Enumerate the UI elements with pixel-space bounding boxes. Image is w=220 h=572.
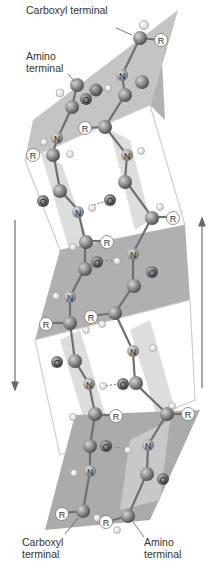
oxygen-label: O <box>94 258 101 268</box>
hydrogen-atom <box>150 345 157 352</box>
carbon-atom <box>76 504 90 518</box>
pleated-sheet-planes <box>25 10 200 530</box>
side-chain-r-label: R <box>113 412 120 422</box>
side-chain-r-label: R <box>104 238 111 248</box>
beta-sheet-diagram: R N O N R R N O O N <box>0 0 220 572</box>
oxygen-label: O <box>54 358 61 368</box>
carbon-atom <box>98 120 112 134</box>
hydrogen-atom <box>157 204 164 211</box>
hydrogen-atom <box>56 89 64 97</box>
nitrogen-label: N <box>130 250 136 260</box>
carbon-atom <box>79 235 93 249</box>
carbon-atom <box>160 407 174 421</box>
hydrogen-atom <box>53 293 60 300</box>
oxygen-label: O <box>40 197 47 207</box>
label-top-amino-line2: terminal <box>26 62 63 74</box>
carbon-atom <box>133 31 147 45</box>
hydrogen-atom <box>89 205 96 212</box>
label-bottom-carboxyl-line1: Carboxyl <box>22 536 63 548</box>
side-chain-r-label: R <box>88 313 95 323</box>
oxygen-label: O <box>83 95 90 105</box>
carbon-atom <box>53 184 67 198</box>
carbon-atom <box>65 100 79 114</box>
nitrogen-label: N <box>87 467 93 477</box>
nitrogen-label: N <box>124 151 130 161</box>
oxygen-atom <box>90 84 103 97</box>
arrow-down-icon <box>12 382 18 390</box>
carbon-atom <box>121 509 135 523</box>
carbon-atom <box>70 78 84 92</box>
arrow-up-icon <box>199 218 205 226</box>
nitrogen-label: N <box>130 347 136 357</box>
label-bottom-amino-line1: Amino <box>144 536 174 548</box>
label-bottom-amino-line2: terminal <box>144 548 181 560</box>
side-chain-r-label: R <box>158 36 165 46</box>
carbon-atom <box>135 75 149 89</box>
hydrogen-atom <box>67 151 74 158</box>
label-top-carboxyl-terminal: Carboxyl terminal <box>26 4 108 16</box>
hydrogen-atom <box>140 21 149 30</box>
hydrogen-atom <box>138 148 145 155</box>
hydrogen-atom <box>114 527 121 534</box>
side-chain-r-label: R <box>185 410 192 420</box>
carbon-atom <box>68 354 82 368</box>
side-chain-r-label: R <box>170 214 177 224</box>
carbon-atom <box>108 306 122 320</box>
carbon-atom <box>129 376 143 390</box>
oxygen-label: O <box>120 380 127 390</box>
oxygen-label: O <box>160 475 167 485</box>
side-chain-r-label: R <box>43 320 50 330</box>
hydrogen-atom <box>100 383 107 390</box>
oxygen-label: O <box>149 268 156 278</box>
oxygen-label: O <box>103 442 110 452</box>
side-chain-r-label: R <box>103 518 110 528</box>
nitrogen-label: N <box>86 380 92 390</box>
hydrogen-atom <box>71 470 78 477</box>
side-chain-r-label: R <box>59 510 66 520</box>
hydrogen-atom <box>125 447 132 454</box>
hydrogen-atom <box>70 244 77 251</box>
carbon-atom <box>83 439 97 453</box>
hydrogen-atom <box>83 327 90 334</box>
label-bottom-carboxyl-line2: terminal <box>22 548 59 560</box>
beta-sheet-svg: R N O N R R N O O N <box>0 0 220 572</box>
label-top-amino-line1: Amino <box>26 50 56 62</box>
carbon-atom <box>118 88 132 102</box>
carbon-atom <box>145 211 159 225</box>
side-chain-r-label: R <box>30 151 37 161</box>
carbon-atom <box>46 148 60 162</box>
hydrogen-atom <box>99 321 106 328</box>
nitrogen-label: N <box>145 441 151 451</box>
nitrogen-label: N <box>67 293 73 303</box>
hydrogen-atom <box>105 85 112 92</box>
nitrogen-label: N <box>54 134 60 144</box>
hydrogen-atom <box>41 139 48 146</box>
side-chain-r-label: R <box>82 124 89 134</box>
carbon-atom <box>78 262 92 276</box>
carbon-atom <box>140 467 154 481</box>
carbon-atom <box>63 316 77 330</box>
carbon-atom <box>88 407 102 421</box>
oxygen-label: O <box>107 196 114 206</box>
nitrogen-label: N <box>119 71 125 81</box>
hydrogen-atom <box>70 414 77 421</box>
hydrogen-atom <box>114 258 121 265</box>
carbon-atom <box>127 279 141 293</box>
carbon-atom <box>118 175 132 189</box>
nitrogen-label: N <box>75 208 81 218</box>
